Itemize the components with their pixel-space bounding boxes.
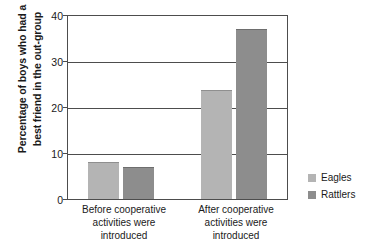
y-axis-title-line-1: Percentage of boys who had a	[15, 5, 30, 153]
y-tick-label-30: 30	[23, 56, 63, 68]
plot-area	[67, 15, 288, 200]
y-axis-title-line-2: best friend in the out-group	[30, 12, 45, 146]
bar-eagles-before	[88, 162, 119, 199]
bar-rattlers-before	[123, 167, 154, 199]
y-tick-label-10: 10	[23, 148, 63, 160]
legend-label-rattlers: Rattlers	[321, 189, 355, 200]
x-axis-label-group-after-line-3: introduced	[166, 229, 306, 242]
y-axis-title: Percentage of boys who had a best friend…	[13, 0, 47, 167]
legend-swatch-eagles-icon	[308, 174, 316, 182]
bar-chart: Percentage of boys who had a best friend…	[0, 0, 368, 250]
legend-item-rattlers: Rattlers	[308, 189, 355, 200]
legend-swatch-rattlers-icon	[308, 191, 316, 199]
y-tick-label-20: 20	[23, 102, 63, 114]
legend: Eagles Rattlers	[308, 172, 355, 200]
bar-rattlers-after	[236, 29, 267, 199]
y-tick-label-40: 40	[23, 10, 63, 22]
legend-label-eagles: Eagles	[321, 172, 352, 183]
legend-item-eagles: Eagles	[308, 172, 355, 183]
x-axis-label-group-after-line-2: activities were	[166, 216, 306, 229]
x-axis-label-group-after-line-1: After cooperative	[166, 203, 306, 216]
bar-eagles-after	[201, 90, 232, 199]
x-axis-label-group-after: After cooperative activities were introd…	[166, 203, 306, 242]
